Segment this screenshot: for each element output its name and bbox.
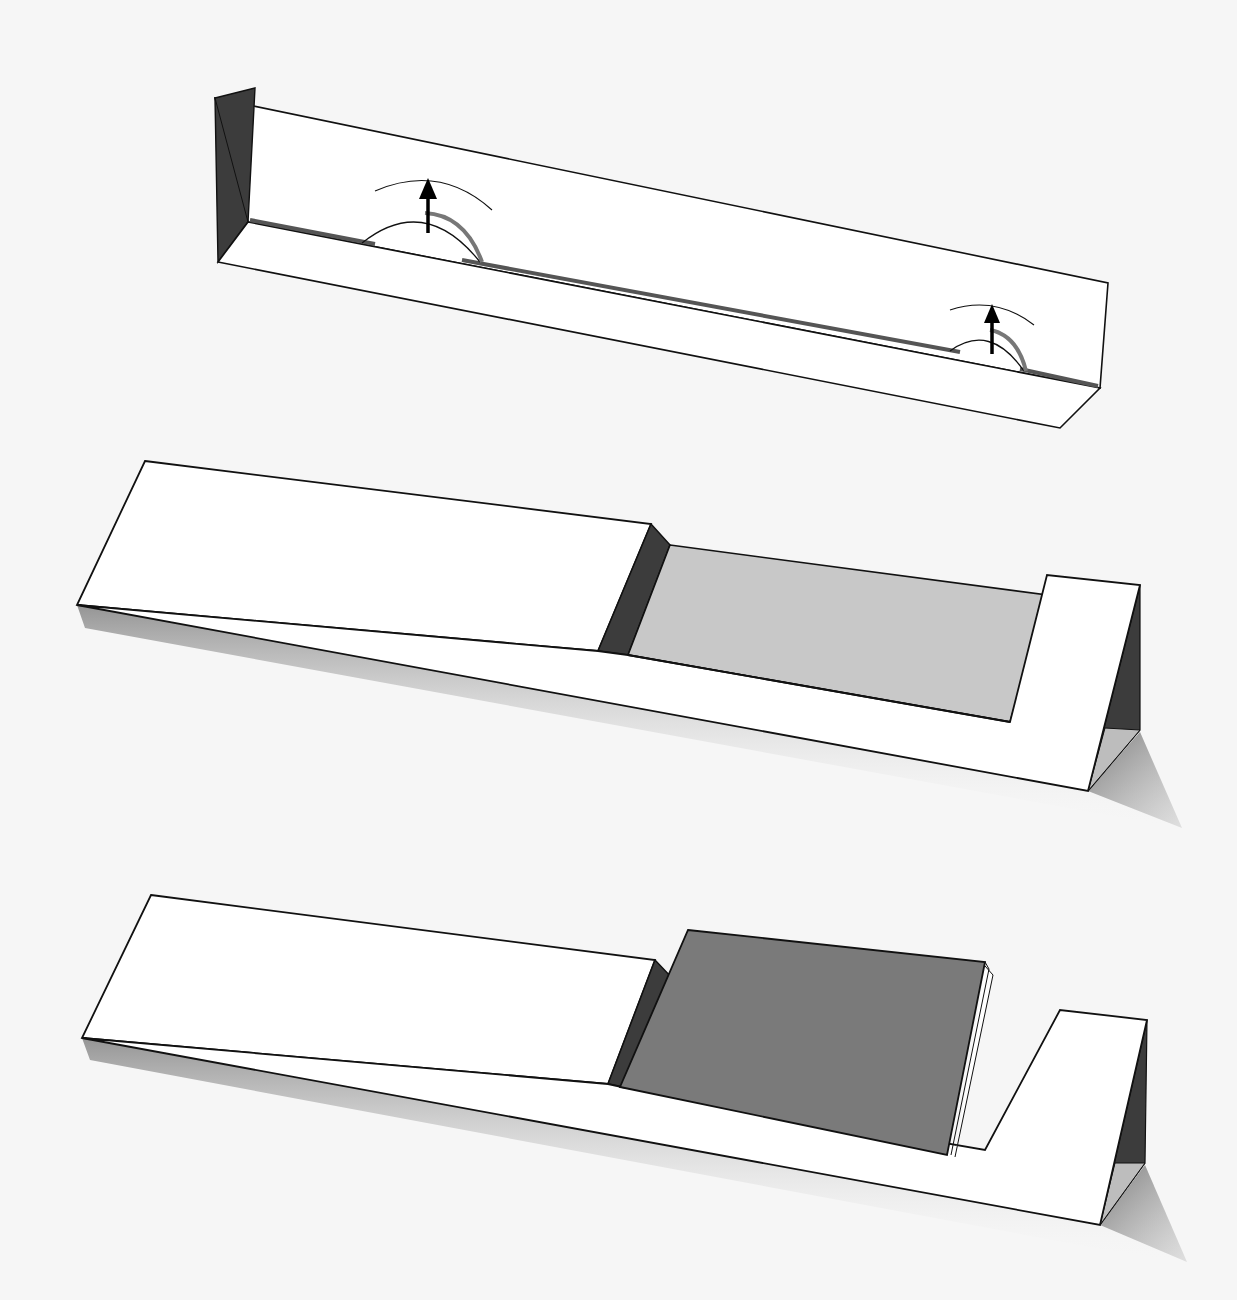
step-3-stand-with-cards: [82, 895, 1187, 1262]
step-2-folded-stand: [77, 461, 1182, 828]
folding-diagram: [0, 0, 1237, 1300]
step-1-strip-with-tabs: [215, 88, 1108, 428]
diagram-canvas: [0, 0, 1237, 1300]
